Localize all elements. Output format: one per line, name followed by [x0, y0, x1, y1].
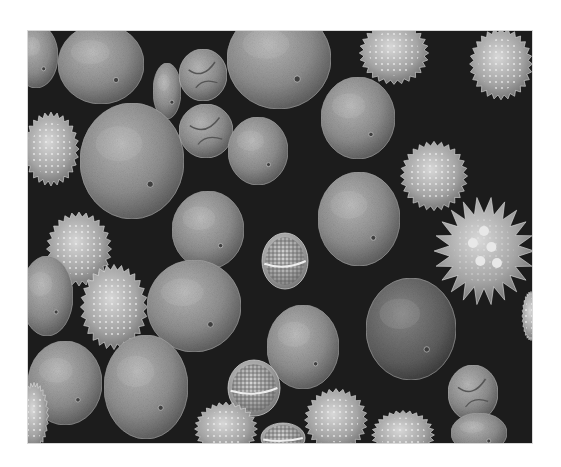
sem-pollen-image	[27, 30, 533, 444]
dark-pollen-grain	[366, 278, 456, 380]
folded-pollen-grain	[179, 104, 233, 158]
smooth-pollen-grain	[321, 77, 395, 159]
smooth-pollen-grain	[172, 191, 244, 269]
folded-pollen-grain	[179, 49, 227, 101]
smooth-pollen-grain	[104, 335, 188, 439]
reticulate-pollen-grain	[262, 233, 308, 289]
smooth-pollen-grain	[318, 172, 400, 266]
pollen-grains-illustration	[27, 30, 533, 444]
smooth-pollen-grain	[80, 103, 184, 219]
smooth-pollen-grain	[228, 117, 288, 185]
folded-pollen-grain	[448, 365, 498, 421]
smooth-pollen-grain	[58, 30, 144, 104]
